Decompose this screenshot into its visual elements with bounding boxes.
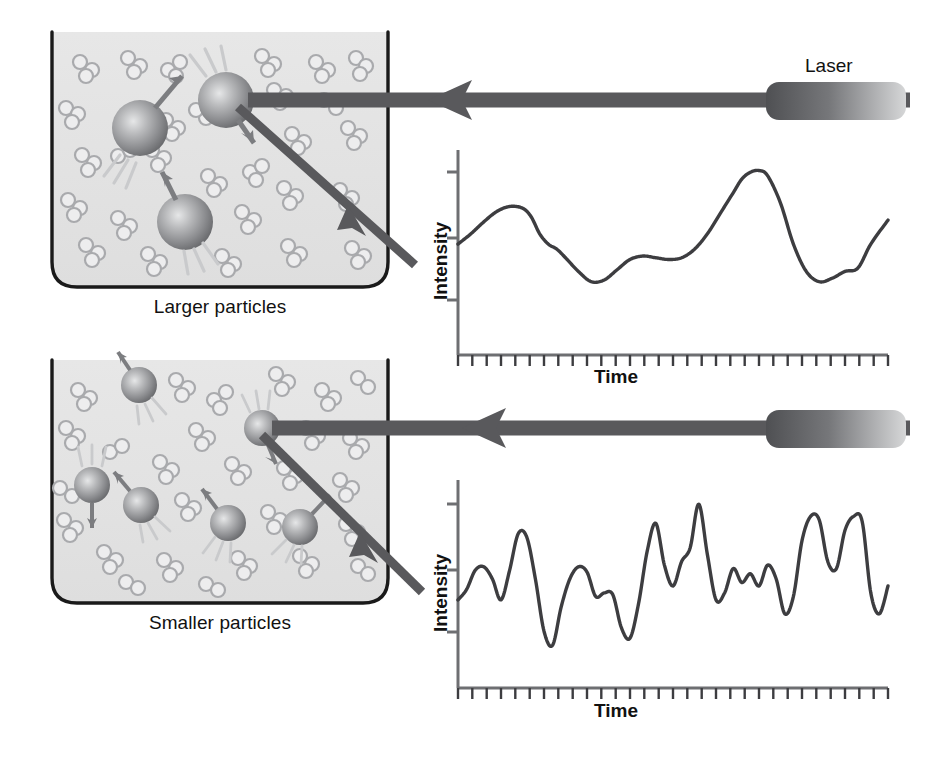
intensity-trace-larger [458,170,888,282]
x-axis-label-top: Time [594,366,638,388]
chart-axes-top [447,150,888,355]
chart-xticks-bottom [458,688,888,699]
chart-axes-bottom [447,480,888,688]
laser-label: Laser [805,55,853,77]
caption-smaller-particles: Smaller particles [52,612,388,634]
caption-larger-particles: Larger particles [52,296,388,318]
figure-canvas [0,0,934,758]
laser-bottom [766,410,906,448]
x-axis-label-bottom: Time [594,700,638,722]
dls-figure: Larger particles Smaller particles Laser… [0,0,934,758]
laser-top [766,82,906,120]
y-axis-label-bottom: Intensity [430,554,452,632]
intensity-trace-smaller [458,504,888,646]
panel-bottom [52,352,910,699]
y-axis-label-top: Intensity [430,222,452,300]
chart-xticks-top [458,355,888,366]
